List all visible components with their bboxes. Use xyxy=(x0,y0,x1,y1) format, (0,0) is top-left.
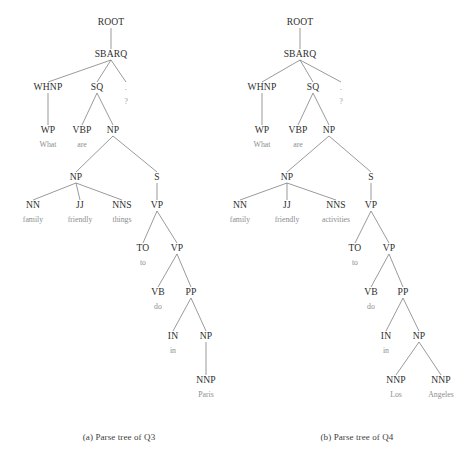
tree-node-a-pp: PP xyxy=(186,286,197,297)
tree-node-b-nn: NN xyxy=(233,199,247,210)
tree-node-b-in: IN xyxy=(381,330,391,341)
tree-leaf-a-leaf-in: in xyxy=(170,346,176,355)
tree-node-a-nn: NN xyxy=(26,199,40,210)
tree-node-b-sq: SQ xyxy=(307,81,320,92)
tree-node-b-root: ROOT xyxy=(287,16,314,27)
tree-edge xyxy=(113,136,157,172)
tree-edge xyxy=(33,183,76,200)
tree-edge xyxy=(371,254,389,287)
tree-node-b-np3: NP xyxy=(413,330,426,341)
tree-leaf-b-leaf-act: activities xyxy=(322,215,350,224)
tree-node-a-np3: NP xyxy=(200,330,213,341)
tree-edge xyxy=(287,183,336,200)
tree-node-b-s: S xyxy=(368,171,374,182)
tree-edge xyxy=(355,211,371,243)
tree-edge xyxy=(419,342,441,375)
tree-edge xyxy=(97,60,111,82)
tree-node-b-to: TO xyxy=(349,242,362,253)
tree-leaf-a-leaf-what: What xyxy=(40,140,58,149)
tree-node-b-vbp: VBP xyxy=(288,124,307,135)
tree-node-a-vb: VB xyxy=(151,286,165,297)
tree-leaf-b-leaf-frnd: friendly xyxy=(275,215,300,224)
caption-subfigure-b: (b) Parse tree of Q4 xyxy=(238,424,476,450)
tree-node-b-nns: NNS xyxy=(326,199,346,210)
tree-leaf-b-leaf-are: are xyxy=(293,140,303,149)
tree-leaf-b-leaf-fam: family xyxy=(230,215,250,224)
tree-node-b-np2: NP xyxy=(281,171,294,182)
tree-node-b-nnp2: NNP xyxy=(431,374,451,385)
tree-edge xyxy=(240,183,287,200)
tree-node-a-wp: WP xyxy=(41,124,56,135)
tree-leaf-a-leaf-are: are xyxy=(77,140,87,149)
tree-leaf-b-leaf-do: do xyxy=(367,302,375,311)
tree-edge xyxy=(76,183,122,200)
tree-leaf-b-leaf-in: in xyxy=(383,346,389,355)
tree-node-a-to: TO xyxy=(137,242,150,253)
tree-node-b-sbarq: SBARQ xyxy=(284,48,317,59)
tree-leaf-b-leaf-what: What xyxy=(254,140,272,149)
tree-node-b-wp: WP xyxy=(255,124,270,135)
tree-node-a-jj: JJ xyxy=(76,199,84,210)
tree-edge xyxy=(386,298,403,331)
tree-node-a-in: IN xyxy=(168,330,178,341)
tree-edge xyxy=(173,298,191,331)
tree-node-b-vp2: VP xyxy=(383,242,396,253)
tree-node-a-vp2: VP xyxy=(171,242,184,253)
caption-row: (a) Parse tree of Q3 (b) Parse tree of Q… xyxy=(0,424,476,450)
tree-node-a-whnp: WHNP xyxy=(34,81,63,92)
tree-leaf-a-leaf-fam: family xyxy=(23,215,43,224)
tree-edge xyxy=(329,136,371,172)
tree-node-a-nnp: NNP xyxy=(196,374,216,385)
tree-edge xyxy=(157,211,177,243)
tree-node-a-punct: . xyxy=(125,82,127,92)
tree-node-b-nnp1: NNP xyxy=(386,374,406,385)
tree-edge xyxy=(298,93,313,125)
tree-edge xyxy=(396,342,419,375)
tree-node-a-vbp: VBP xyxy=(72,124,91,135)
tree-edge xyxy=(143,211,157,243)
parse-trees-canvas: ROOTSBARQWHNPSQ.WPVBPNPNPSNNJJNNSVPTOVPV… xyxy=(0,0,476,420)
tree-node-b-pp: PP xyxy=(398,286,409,297)
tree-leaf-a-leaf-q: ? xyxy=(124,97,128,106)
tree-node-a-vp1: VP xyxy=(151,199,164,210)
tree-node-b-np1: NP xyxy=(323,124,336,135)
tree-node-a-root: ROOT xyxy=(98,16,125,27)
tree-leaf-a-leaf-do: do xyxy=(154,302,162,311)
tree-edge xyxy=(191,298,206,331)
tree-edge xyxy=(389,254,403,287)
tree-edge xyxy=(48,60,111,82)
tree-leaf-a-leaf-thg: things xyxy=(112,215,131,224)
tree-node-b-vp1: VP xyxy=(365,199,378,210)
tree-edge xyxy=(177,254,191,287)
tree-edge xyxy=(371,211,389,243)
tree-edge xyxy=(82,93,97,125)
tree-node-a-sbarq: SBARQ xyxy=(95,48,128,59)
tree-nodes-layer: ROOTSBARQWHNPSQ.WPVBPNPNPSNNJJNNSVPTOVPV… xyxy=(23,16,454,399)
tree-edge xyxy=(111,60,126,82)
tree-node-b-vb: VB xyxy=(364,286,378,297)
parse-tree-figure: ROOTSBARQWHNPSQ.WPVBPNPNPSNNJJNNSVPTOVPV… xyxy=(0,0,476,461)
tree-leaf-b-leaf-los: Los xyxy=(390,390,402,399)
caption-subfigure-a: (a) Parse tree of Q3 xyxy=(0,424,238,450)
tree-node-a-sq: SQ xyxy=(91,81,104,92)
tree-edge xyxy=(76,183,80,200)
tree-edge xyxy=(313,93,329,125)
tree-edge xyxy=(97,93,113,125)
tree-node-b-jj: JJ xyxy=(283,199,291,210)
tree-leaf-b-leaf-ang: Angeles xyxy=(428,390,454,399)
tree-leaf-a-leaf-frnd: friendly xyxy=(68,215,93,224)
tree-leaf-b-leaf-to: to xyxy=(352,258,358,267)
tree-node-a-nns: NNS xyxy=(112,199,132,210)
tree-node-b-punct: . xyxy=(340,82,342,92)
tree-edge xyxy=(262,60,300,82)
tree-leaf-a-leaf-to: to xyxy=(140,258,146,267)
tree-edge xyxy=(158,254,177,287)
tree-node-a-np1: NP xyxy=(107,124,120,135)
tree-node-b-whnp: WHNP xyxy=(248,81,277,92)
tree-node-a-s: S xyxy=(154,171,160,182)
tree-leaf-b-leaf-q: ? xyxy=(339,97,343,106)
tree-leaf-a-leaf-paris: Paris xyxy=(198,390,214,399)
tree-edge xyxy=(403,298,419,331)
tree-node-a-np2: NP xyxy=(70,171,83,182)
